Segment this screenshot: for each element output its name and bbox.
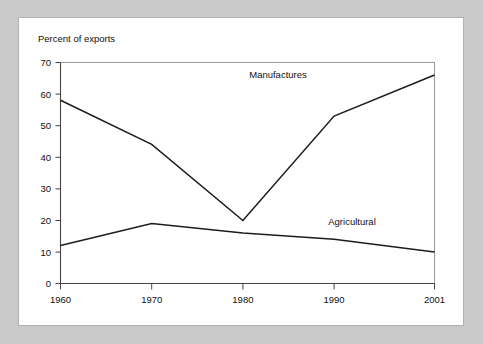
y-axis-ticks: 70 60 50 40 30 20 10 0 <box>40 57 60 289</box>
series-label-manufactures: Manufactures <box>249 69 307 80</box>
y-tick-label: 40 <box>40 152 51 163</box>
y-tick-label: 50 <box>40 120 51 131</box>
y-axis-title: Percent of exports <box>38 33 115 44</box>
series-line-agricultural <box>61 224 435 252</box>
y-tick-label: 30 <box>40 183 51 194</box>
line-chart: Percent of exports 70 60 50 40 30 20 <box>19 18 464 325</box>
figure-root: Percent of exports 70 60 50 40 30 20 <box>0 0 483 344</box>
x-tick-label: 1980 <box>232 294 253 305</box>
x-tick-label: 2001 <box>424 294 445 305</box>
x-tick-label: 1970 <box>141 294 162 305</box>
y-tick-label: 20 <box>40 215 51 226</box>
x-tick-label: 1990 <box>324 294 345 305</box>
chart-panel: Percent of exports 70 60 50 40 30 20 <box>18 17 464 326</box>
plot-frame <box>61 63 435 284</box>
series-line-manufactures <box>61 75 435 221</box>
x-axis-ticks: 1960 1970 1980 1990 2001 <box>50 284 445 306</box>
y-tick-label: 70 <box>40 57 51 68</box>
series-label-agricultural: Agricultural <box>328 216 376 227</box>
x-tick-label: 1960 <box>50 294 71 305</box>
y-tick-label: 60 <box>40 89 51 100</box>
y-tick-label: 0 <box>46 278 51 289</box>
y-tick-label: 10 <box>40 247 51 258</box>
